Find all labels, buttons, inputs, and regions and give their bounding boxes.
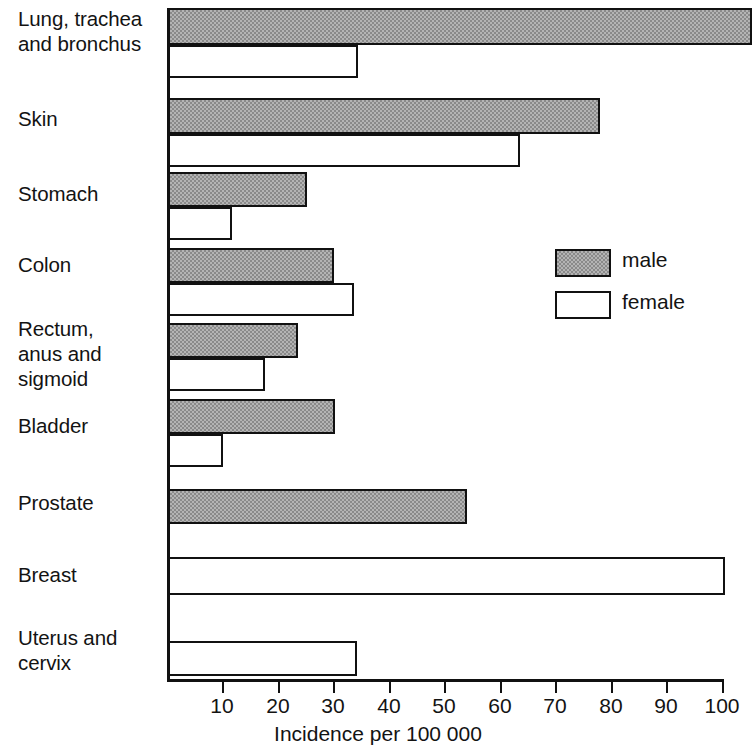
x-tick-90 <box>666 679 668 693</box>
x-tick-label-100: 100 <box>704 694 739 718</box>
bar-male-lung <box>168 8 752 45</box>
legend-label-male: male <box>622 248 668 272</box>
bar-male-skin <box>168 98 600 134</box>
x-tick-label-40: 40 <box>377 694 400 718</box>
legend-label-female: female <box>622 290 685 314</box>
x-tick-10 <box>222 679 224 693</box>
x-axis-title: Incidence per 100 000 <box>0 722 756 746</box>
category-label-skin: Skin <box>18 106 57 131</box>
x-tick-100 <box>722 679 724 693</box>
category-label-bladder: Bladder <box>18 413 88 438</box>
legend-swatch-female <box>555 291 611 319</box>
category-label-prostate: Prostate <box>18 490 94 515</box>
x-tick-label-10: 10 <box>210 694 233 718</box>
x-tick-label-30: 30 <box>321 694 344 718</box>
category-label-colon: Colon <box>18 252 71 277</box>
bar-female-colon <box>168 283 354 316</box>
bar-male-bladder <box>168 399 335 434</box>
x-tick-20 <box>278 679 280 693</box>
bar-female-uterus <box>168 641 357 676</box>
category-label-rectum: Rectum, anus and sigmoid <box>18 316 102 391</box>
y-axis-line <box>167 8 170 681</box>
x-tick-label-50: 50 <box>432 694 455 718</box>
bar-male-colon <box>168 248 334 283</box>
bar-male-stomach <box>168 172 307 207</box>
category-label-breast: Breast <box>18 562 77 587</box>
legend-swatch-male <box>555 249 611 277</box>
category-label-uterus: Uterus and cervix <box>18 625 117 675</box>
bar-female-stomach <box>168 207 232 240</box>
bar-female-bladder <box>168 434 223 467</box>
x-tick-70 <box>555 679 557 693</box>
x-tick-40 <box>389 679 391 693</box>
x-tick-label-80: 80 <box>599 694 622 718</box>
x-tick-label-20: 20 <box>266 694 289 718</box>
x-tick-label-60: 60 <box>488 694 511 718</box>
x-tick-50 <box>444 679 446 693</box>
x-tick-label-70: 70 <box>543 694 566 718</box>
bar-male-rectum <box>168 323 298 358</box>
bar-female-lung <box>168 45 358 78</box>
x-tick-30 <box>333 679 335 693</box>
bar-chart: Lung, trachea and bronchus Skin Stomach … <box>0 0 756 746</box>
category-label-stomach: Stomach <box>18 181 98 206</box>
bar-female-breast <box>168 557 725 595</box>
bar-female-rectum <box>168 358 265 391</box>
x-tick-60 <box>500 679 502 693</box>
x-tick-80 <box>611 679 613 693</box>
category-label-lung: Lung, trachea and bronchus <box>18 6 142 56</box>
x-tick-label-90: 90 <box>654 694 677 718</box>
bar-male-prostate <box>168 489 467 524</box>
bar-female-skin <box>168 134 520 167</box>
